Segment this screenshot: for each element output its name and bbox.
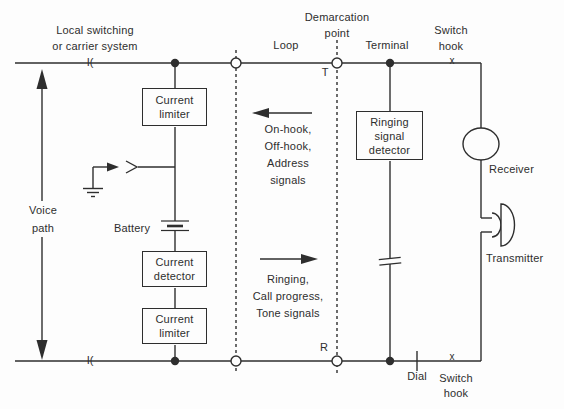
box-label-line: signal (375, 129, 405, 143)
label-line: Demarcation (305, 9, 370, 25)
battery-label: Battery (114, 220, 150, 236)
label-line: Tone signals (253, 305, 324, 322)
voice-path-arrowhead-up (37, 69, 48, 89)
downstream-arrowhead-icon (301, 254, 318, 264)
demarc-node-bottom-open (332, 356, 342, 366)
label-line: Ringing, (253, 271, 324, 288)
voice-path-label: Voice path (25, 201, 61, 237)
label-line: On-hook, (265, 121, 312, 138)
label-line: Voice (29, 201, 57, 219)
label-line: path (29, 219, 57, 237)
ground-icon (83, 167, 103, 197)
diagram-canvas: Current limiter Current detector Current… (0, 0, 564, 409)
terminal-label: Terminal (365, 37, 408, 53)
demarc-node-top-open (332, 58, 342, 68)
label-line: point (305, 25, 370, 41)
loop-node-bottom-open (231, 356, 241, 366)
line-coil-bottom-mark: I( (87, 354, 94, 366)
switch-hook-top-label: Switch hook (434, 22, 468, 54)
label-line: Switch (439, 371, 473, 386)
demarcation-point-label: Demarcation point (305, 9, 370, 41)
ring-mark: R (320, 341, 328, 353)
line-coil-top-mark: I( (87, 56, 94, 68)
current-limiter-bottom-box: Current limiter (142, 308, 207, 344)
contact-chevron-icon (126, 161, 137, 173)
junction-dot-bottom-right (386, 357, 394, 365)
dial-label: Dial (407, 368, 427, 384)
receiver-label: Receiver (489, 161, 534, 177)
box-label-line: Current (155, 255, 193, 269)
hook-contact-bottom-mark: x (450, 351, 455, 362)
downstream-signals-label: Ringing, Call progress, Tone signals (253, 271, 324, 322)
junction-dot-bottom-left (171, 357, 179, 365)
current-detector-box: Current detector (142, 251, 207, 287)
label-line: Local switching (52, 22, 137, 38)
box-label-line: detector (154, 269, 195, 283)
current-limiter-top-box: Current limiter (142, 88, 207, 126)
box-label-line: Current (155, 93, 193, 107)
upstream-arrowhead-icon (252, 108, 269, 118)
hook-contact-top-mark: x (450, 55, 455, 66)
transmitter-label: Transmitter (486, 250, 543, 266)
ringing-signal-detector-box: Ringing signal detector (356, 111, 423, 160)
label-line: Call progress, (253, 288, 324, 305)
ground-arrowhead-icon (107, 163, 119, 172)
label-line: hook (434, 38, 468, 54)
label-line: Off-hook, (265, 138, 312, 155)
loop-label: Loop (273, 37, 298, 53)
circuit-linework (0, 0, 564, 409)
tip-mark: T (322, 66, 329, 78)
switch-hook-bottom-label: Switch hook (439, 371, 473, 401)
label-line: Switch (434, 22, 468, 38)
capacitor-icon (379, 257, 401, 265)
label-line: signals (265, 172, 312, 189)
box-label-line: limiter (159, 107, 190, 121)
voice-path-arrowhead-down (37, 340, 48, 360)
loop-node-top-open (231, 58, 241, 68)
box-label-line: Ringing (370, 115, 409, 129)
label-line: or carrier system (52, 38, 137, 54)
receiver-circle-icon (463, 128, 499, 160)
box-label-line: limiter (159, 326, 190, 340)
junction-dot-top-right (386, 59, 394, 67)
upstream-signals-label: On-hook, Off-hook, Address signals (265, 121, 312, 189)
transmitter-speaker-icon (501, 204, 515, 246)
transmitter-diaphragm (492, 213, 501, 237)
box-label-line: detector (369, 143, 410, 157)
label-line: hook (439, 386, 473, 401)
local-switching-label: Local switching or carrier system (52, 22, 137, 54)
label-line: Address (265, 155, 312, 172)
junction-dot-top-left (171, 59, 179, 67)
box-label-line: Current (155, 312, 193, 326)
battery-icon (161, 221, 189, 231)
